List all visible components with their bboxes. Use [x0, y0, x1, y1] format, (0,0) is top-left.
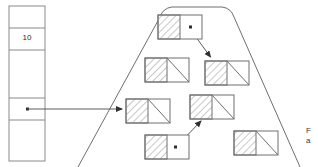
node-left-data-field	[126, 99, 148, 123]
node-bottom-left[interactable]	[145, 135, 189, 159]
array-cell-value-10: 10	[10, 34, 44, 42]
diagram-svg	[0, 0, 318, 167]
node-top-pointer-dot	[189, 26, 192, 29]
node-mid-right[interactable]	[205, 61, 249, 85]
clipped-edge-text: Fa	[306, 126, 318, 146]
node-bottom-left-data-field	[145, 135, 167, 159]
node-center[interactable]	[190, 95, 234, 119]
node-mid-left-data-field	[145, 58, 167, 82]
pointer-array[interactable]	[9, 6, 45, 161]
node-mid-right-data-field	[205, 61, 227, 85]
node-bottom-right[interactable]	[234, 131, 278, 155]
node-center-data-field	[190, 95, 212, 119]
node-mid-left[interactable]	[145, 58, 189, 82]
node-top[interactable]	[158, 15, 202, 39]
node-bottom-right-data-field	[234, 131, 256, 155]
node-top-data-field	[158, 15, 180, 39]
node-left[interactable]	[126, 99, 170, 123]
diagram-canvas: 10 Fa	[0, 0, 318, 167]
node-bottom-left-pointer-dot	[174, 146, 177, 149]
